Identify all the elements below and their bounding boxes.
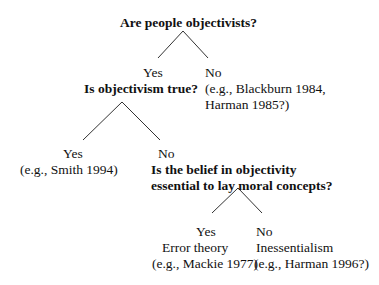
root-no-example-line1: (e.g., Blackburn 1984,	[205, 81, 326, 97]
objectivism-yes-example: (e.g., Smith 1994)	[20, 162, 118, 178]
inessentialism-example: (e.g., Harman 1996?)	[254, 256, 369, 272]
objectivism-yes-label: Yes	[63, 146, 83, 162]
root-question: Are people objectivists?	[120, 15, 257, 31]
essential-no-label: No	[256, 224, 273, 240]
inessentialism-label: Inessentialism	[256, 240, 333, 256]
root-no-example-line2: Harman 1985?)	[205, 97, 289, 113]
branch-objectivism-no	[122, 102, 160, 140]
branch-root-no	[183, 31, 208, 58]
error-theory-label: Error theory	[162, 240, 228, 256]
essential-question-line1: Is the belief in objectivity	[151, 162, 296, 178]
branch-root-yes	[158, 31, 183, 58]
objectivism-no-label: No	[158, 146, 175, 162]
error-theory-example: (e.g., Mackie 1977)	[152, 256, 258, 272]
root-no-label: No	[205, 65, 222, 81]
essential-question-line2: essential to lay moral concepts?	[151, 178, 332, 194]
objectivism-question: Is objectivism true?	[84, 81, 198, 97]
root-yes-label: Yes	[143, 65, 163, 81]
branch-objectivism-yes	[83, 102, 122, 140]
essential-yes-label: Yes	[196, 224, 216, 240]
decision-tree-diagram: Are people objectivists? Yes Is objectiv…	[0, 0, 379, 285]
